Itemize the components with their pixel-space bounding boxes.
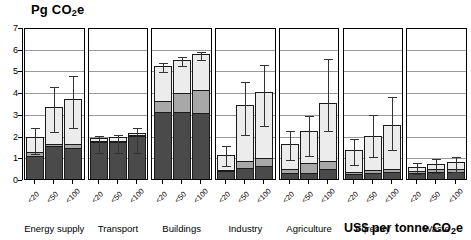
- x-axis-category-label: <100: [191, 187, 209, 205]
- x-axis-tick: [181, 180, 182, 184]
- x-axis-category-label: <50: [300, 190, 315, 205]
- y-axis-line: [22, 28, 23, 180]
- bar-segment-low: [345, 174, 363, 179]
- error-bar-cap-upper: [69, 76, 78, 77]
- bar-segment-mid: [64, 144, 82, 148]
- error-bar-line: [226, 146, 227, 166]
- x-axis-category-label: <100: [64, 187, 82, 205]
- error-bar-cap-lower: [114, 153, 123, 154]
- grid-line: [280, 93, 339, 94]
- error-bar-cap-lower: [178, 66, 187, 67]
- error-bar-line: [456, 157, 457, 172]
- bar-segment-mid: [236, 161, 254, 168]
- error-bar-cap-upper: [260, 65, 269, 66]
- error-bar-cap-upper: [452, 157, 461, 158]
- x-axis-category-label: <50: [427, 190, 442, 205]
- bar-segment-low: [45, 146, 63, 179]
- x-axis-category-label: <50: [172, 190, 187, 205]
- error-bar-line: [163, 63, 164, 73]
- sector-label: Agriculture: [279, 223, 340, 234]
- error-bar-line: [137, 128, 138, 153]
- x-axis-tick: [162, 180, 163, 184]
- bar-segment-low: [192, 113, 210, 179]
- x-axis-tick: [353, 180, 354, 184]
- y-axis-title: Pg CO2e: [31, 2, 84, 18]
- error-bar-cap-upper: [31, 128, 40, 129]
- bar-segment-mid: [319, 161, 337, 169]
- stacked-bar[interactable]: [154, 66, 172, 179]
- error-bar-line: [264, 65, 265, 126]
- x-axis-title-main: US$ per tonne CO: [344, 221, 451, 235]
- error-bar-cap-upper: [432, 159, 441, 160]
- y-axis-tick: [18, 71, 22, 72]
- bar-segment-mid: [217, 170, 235, 171]
- x-axis-tick: [244, 180, 245, 184]
- y-axis-tick-label: 7: [2, 24, 18, 32]
- error-bar-cap-upper: [133, 128, 142, 129]
- chart-figure: Pg CO2e 01234567 <20<50<100Energy supply…: [0, 0, 471, 240]
- x-axis-category-label: <50: [109, 190, 124, 205]
- error-bar-line: [73, 76, 74, 128]
- error-bar-cap-upper: [305, 116, 314, 117]
- chart-panel: [151, 28, 212, 180]
- error-bar-cap-lower: [324, 131, 333, 132]
- sector-label: Industry: [215, 223, 276, 234]
- grid-line: [344, 93, 403, 94]
- error-bar-line: [35, 128, 36, 154]
- bar-segment-mid: [192, 90, 210, 113]
- error-bar-cap-lower: [413, 174, 422, 175]
- error-bar-cap-lower: [305, 156, 314, 157]
- grid-line: [25, 71, 84, 72]
- bar-segment-low: [26, 156, 44, 179]
- stacked-bar[interactable]: [192, 54, 210, 179]
- chart-panel: [279, 28, 340, 180]
- error-bar-line: [182, 57, 183, 66]
- bar-segment-low: [236, 168, 254, 179]
- error-bar-cap-upper: [350, 139, 359, 140]
- error-bar-line: [354, 139, 355, 165]
- error-bar-cap-lower: [260, 126, 269, 127]
- x-axis-title: US$ per tonne CO2e: [344, 221, 463, 236]
- y-axis-title-tail: e: [77, 2, 84, 17]
- bar-segment-mid: [300, 163, 318, 172]
- y-axis-tick: [18, 115, 22, 116]
- error-bar-line: [201, 52, 202, 59]
- bar-segment-low: [154, 112, 172, 179]
- sector-label: Transport: [88, 223, 149, 234]
- y-axis-tick: [18, 158, 22, 159]
- error-bar-line: [328, 59, 329, 131]
- error-bar-cap-upper: [369, 115, 378, 116]
- y-axis-tick: [18, 93, 22, 94]
- x-axis-tick: [327, 180, 328, 184]
- stacked-bar[interactable]: [173, 60, 191, 179]
- error-bar-cap-lower: [369, 157, 378, 158]
- x-axis-category-label: <100: [255, 187, 273, 205]
- x-axis-category-label: <50: [363, 190, 378, 205]
- error-bar-cap-upper: [114, 135, 123, 136]
- error-bar-line: [309, 116, 310, 156]
- bar-segment-low: [173, 112, 191, 179]
- y-axis-tick-label: 3: [2, 111, 18, 119]
- x-axis-tick: [136, 180, 137, 184]
- chart-panel: [215, 28, 276, 180]
- error-bar-cap-lower: [31, 154, 40, 155]
- y-axis-tick-label: 6: [2, 46, 18, 54]
- bar-segment-mid: [154, 101, 172, 112]
- grid-line: [216, 71, 275, 72]
- error-bar-cap-lower: [95, 153, 104, 154]
- error-bar-cap-upper: [286, 131, 295, 132]
- error-bar-line: [99, 136, 100, 152]
- error-bar-line: [245, 82, 246, 135]
- error-bar-cap-upper: [222, 146, 231, 147]
- grid-line: [407, 93, 466, 94]
- grid-line: [89, 71, 148, 72]
- x-axis-tick: [308, 180, 309, 184]
- error-bar-cap-lower: [388, 150, 397, 151]
- error-bar-line: [290, 131, 291, 160]
- error-bar-cap-lower: [350, 165, 359, 166]
- grid-line: [344, 50, 403, 51]
- x-axis-category-label: <20: [26, 190, 41, 205]
- x-axis-tick: [72, 180, 73, 184]
- chart-panel: [24, 28, 85, 180]
- grid-line: [25, 50, 84, 51]
